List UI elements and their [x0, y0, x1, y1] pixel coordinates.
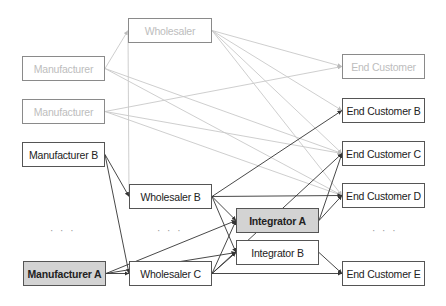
edge-w0-to-ed	[212, 31, 342, 196]
edge-m1-to-ec	[105, 69, 342, 154]
edge-ib-to-ee	[319, 253, 342, 274]
node-end-customer-b: End Customer B	[342, 98, 425, 123]
node-integrator-b: Integrator B	[236, 240, 319, 265]
node-end-customer-e: End Customer E	[342, 261, 425, 286]
ellipsis-manufacturers-more: · · ·	[50, 225, 76, 236]
node-integrator-a: Integrator A	[236, 208, 319, 233]
node-manufacturer-b: Manufacturer B	[22, 142, 105, 167]
edge-ia-to-ed	[319, 196, 342, 221]
edge-m2-to-ed	[105, 112, 342, 196]
node-wholesaler: Wholesaler	[128, 18, 212, 43]
ellipsis-customers-more: · · ·	[372, 225, 398, 236]
edge-wb-to-eb	[212, 111, 342, 197]
ellipsis-wholesalers-more: · · ·	[157, 225, 183, 236]
edge-wb-to-ed	[212, 196, 342, 197]
node-manufacturer: Manufacturer	[22, 56, 105, 81]
node-manufacturer-a: Manufacturer A	[23, 261, 106, 286]
node-end-customer-d: End Customer D	[342, 183, 425, 208]
edge-group	[105, 31, 342, 274]
edge-wb-to-ib	[212, 197, 236, 253]
node-end-customer: End Customer	[342, 54, 425, 79]
node-end-customer-c: End Customer C	[342, 141, 425, 166]
edge-mb-to-wb	[105, 155, 129, 197]
edge-mb-to-wc	[105, 155, 129, 274]
edge-m1-to-ed	[105, 69, 342, 196]
edge-wb-to-ia	[212, 197, 236, 221]
node-wholesaler-b: Wholesaler B	[129, 184, 212, 209]
edge-m1-to-w0	[105, 31, 128, 69]
node-wholesaler-c: Wholesaler C	[129, 261, 212, 286]
node-manufacturer: Manufacturer	[22, 99, 105, 124]
edge-m2-to-ec	[105, 112, 342, 154]
edge-w0-to-wb	[128, 31, 129, 197]
